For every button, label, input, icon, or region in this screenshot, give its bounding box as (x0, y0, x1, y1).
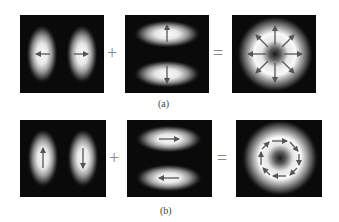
plus-sign: + (107, 44, 117, 62)
plus-sign: + (109, 149, 119, 167)
panel-a3-radial-donut (232, 15, 316, 93)
equals-sign: = (213, 44, 223, 62)
panel-a2-horizontal-lobes (125, 15, 209, 93)
panel-b2-horizontal-lobes (127, 120, 212, 197)
panel-b3-azimuthal-donut (236, 120, 322, 197)
panel-b1-vertical-lobes (20, 120, 106, 197)
caption-a: (a) (158, 98, 169, 109)
equals-sign: = (217, 149, 227, 167)
caption-b: (b) (160, 205, 172, 216)
panel-a1-vertical-lobes (20, 15, 104, 93)
